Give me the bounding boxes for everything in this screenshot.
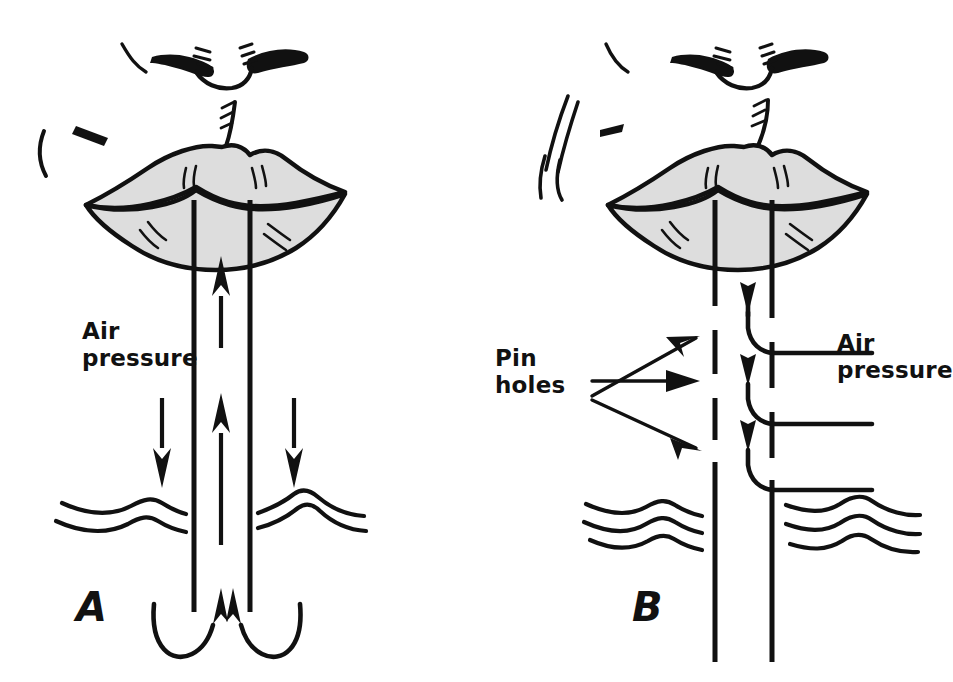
liquid-surface-left-a <box>56 499 186 532</box>
pin-hole-pointer-1 <box>592 336 700 396</box>
label-air-pressure-b-line2: pressure <box>837 357 953 383</box>
label-pin-holes-line2: holes <box>495 372 565 398</box>
label-air-pressure-b-line1: Air <box>837 330 875 356</box>
inflow-curve-right-a <box>226 588 300 657</box>
pinhole-inflow-3 <box>740 420 872 490</box>
face-sketch-marks-a <box>40 44 146 176</box>
panel-letter-b: B <box>632 584 663 630</box>
liquid-surface-right-a <box>258 490 366 531</box>
nose-a <box>150 44 309 146</box>
liquid-surface-right-b <box>786 497 920 552</box>
nose-b <box>670 44 829 146</box>
label-pin-holes-line1: Pin <box>495 345 537 371</box>
panel-letter-a: A <box>76 584 107 630</box>
air-pressure-arrow-right-a <box>285 398 303 488</box>
lips-a <box>86 145 345 270</box>
air-pressure-arrow-left-a <box>153 398 171 488</box>
label-air-pressure-a-line1: Air <box>82 318 120 344</box>
label-air-pressure-b: Airpressure <box>837 330 953 384</box>
label-pin-holes: Pinholes <box>495 345 565 399</box>
pin-hole-pointer-3 <box>592 400 702 460</box>
label-air-pressure-a: Airpressure <box>82 318 198 372</box>
liquid-flow-arrow-lower-a <box>212 393 230 545</box>
label-air-pressure-a-line2: pressure <box>82 345 198 371</box>
lips-b <box>608 145 867 270</box>
liquid-surface-left-b <box>584 501 702 550</box>
inflow-curve-left-a <box>154 588 228 657</box>
face-sketch-marks-b <box>540 44 628 200</box>
